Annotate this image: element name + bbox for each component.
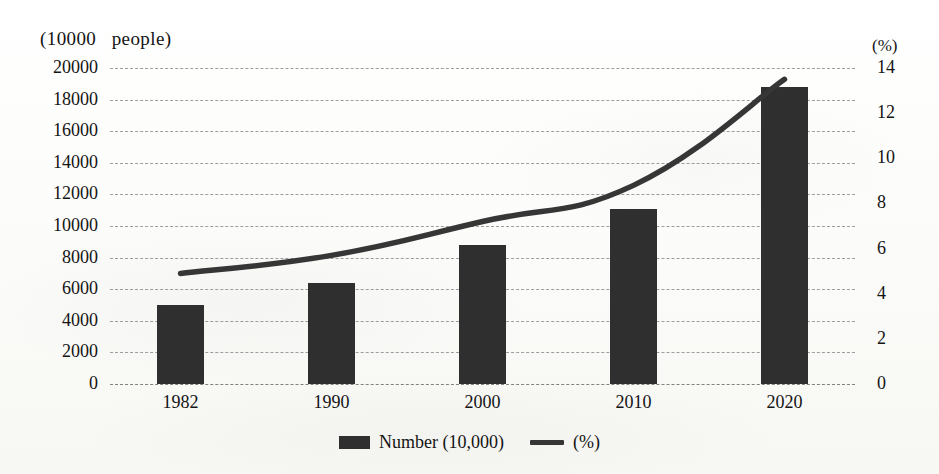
line-series <box>110 68 855 384</box>
left-axis-tick: 20000 <box>3 57 98 78</box>
right-axis-tick: 0 <box>877 373 917 394</box>
legend-bar-swatch-icon <box>339 436 370 449</box>
x-axis-tick-1990: 1990 <box>314 392 350 413</box>
gridline <box>110 384 855 385</box>
right-axis-tick: 10 <box>877 147 917 168</box>
right-axis-tick: 2 <box>877 328 917 349</box>
right-axis-tick: 14 <box>877 57 917 78</box>
left-axis-tick: 18000 <box>3 89 98 110</box>
legend-line-swatch-icon <box>530 440 564 445</box>
chart-figure: (10000 people) (%) 200001800016000140001… <box>0 0 939 474</box>
plot-area: 2000018000160001400012000100008000600040… <box>110 68 855 384</box>
right-axis-tick: 12 <box>877 102 917 123</box>
left-axis-tick: 4000 <box>3 310 98 331</box>
x-axis-tick-1982: 1982 <box>163 392 199 413</box>
right-axis-tick: 6 <box>877 238 917 259</box>
right-axis-tick: 4 <box>877 283 917 304</box>
left-axis-tick: 12000 <box>3 183 98 204</box>
legend-entry-number: Number (10,000) <box>339 432 504 453</box>
legend-label-number: Number (10,000) <box>379 432 504 453</box>
right-axis-tick: 8 <box>877 193 917 214</box>
legend-entry-percent: (%) <box>530 432 600 453</box>
x-axis-tick-2000: 2000 <box>465 392 501 413</box>
left-axis-tick: 10000 <box>3 215 98 236</box>
left-axis-title: (10000 people) <box>40 28 171 50</box>
left-axis-tick: 8000 <box>3 247 98 268</box>
x-axis-tick-2020: 2020 <box>767 392 803 413</box>
left-axis-tick: 0 <box>3 373 98 394</box>
left-axis-tick: 14000 <box>3 152 98 173</box>
x-axis-tick-2010: 2010 <box>616 392 652 413</box>
left-axis-tick: 16000 <box>3 120 98 141</box>
legend-label-percent: (%) <box>573 432 600 453</box>
left-axis-tick: 2000 <box>3 341 98 362</box>
right-axis-title: (%) <box>872 36 897 56</box>
chart-legend: Number (10,000) (%) <box>0 432 939 453</box>
percent-line-path <box>181 79 785 273</box>
left-axis-tick: 6000 <box>3 278 98 299</box>
x-axis-tick-labels: 19821990200020102020 <box>110 392 855 418</box>
